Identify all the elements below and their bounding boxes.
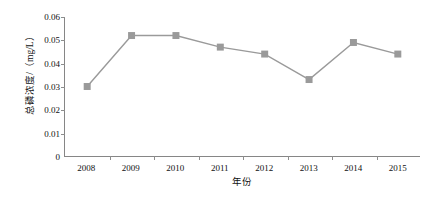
plot-area bbox=[64, 17, 420, 157]
y-axis-tick-mark bbox=[61, 64, 65, 65]
y-axis-tick-mark bbox=[61, 17, 65, 18]
y-axis-tick-label: 0.05 bbox=[30, 35, 60, 45]
data-point-marker bbox=[350, 39, 357, 46]
data-point-marker bbox=[217, 44, 224, 51]
x-axis-tick-label: 2010 bbox=[166, 162, 184, 174]
y-axis-tick-mark bbox=[61, 134, 65, 135]
y-axis-tick-label: 0.03 bbox=[30, 82, 60, 92]
x-axis-tick-mark bbox=[199, 156, 200, 160]
series-line-total-phosphorus bbox=[65, 17, 420, 156]
x-axis-tick-mark bbox=[243, 156, 244, 160]
x-axis-tick-mark bbox=[110, 156, 111, 160]
x-axis-tick-label: 2013 bbox=[300, 162, 318, 174]
x-axis-tick-label: 2014 bbox=[344, 162, 362, 174]
y-axis-tick-mark bbox=[61, 87, 65, 88]
data-point-marker bbox=[261, 51, 268, 58]
x-axis-tick-label: 2012 bbox=[255, 162, 273, 174]
data-point-marker bbox=[128, 32, 135, 39]
y-axis-tick-mark bbox=[61, 40, 65, 41]
y-axis-tick-label: 0.04 bbox=[30, 59, 60, 69]
x-axis-tick-label: 2008 bbox=[77, 162, 95, 174]
x-axis-tick-labels: 20082009201020112012201320142015 bbox=[64, 162, 420, 176]
data-point-marker bbox=[84, 83, 91, 90]
data-point-marker bbox=[306, 76, 313, 83]
y-axis-tick-label: 0.06 bbox=[30, 12, 60, 22]
x-axis-tick-mark bbox=[154, 156, 155, 160]
x-axis-tick-label: 2015 bbox=[389, 162, 407, 174]
total-phosphorus-line-chart: 总磷浓度/（mg/L） 00.010.020.030.040.050.06 20… bbox=[0, 0, 448, 200]
y-axis-tick-label: 0.02 bbox=[30, 105, 60, 115]
x-axis-tick-label: 2011 bbox=[211, 162, 229, 174]
y-axis-tick-labels: 00.010.020.030.040.050.06 bbox=[30, 10, 60, 164]
y-axis-tick-label: 0 bbox=[30, 152, 60, 162]
y-axis-tick-mark bbox=[61, 110, 65, 111]
x-axis-tick-mark bbox=[377, 156, 378, 160]
x-axis-tick-mark bbox=[288, 156, 289, 160]
x-axis-tick-label: 2009 bbox=[122, 162, 140, 174]
data-point-marker bbox=[394, 51, 401, 58]
x-axis-title: 年份 bbox=[64, 176, 420, 189]
x-axis-tick-mark bbox=[332, 156, 333, 160]
data-point-marker bbox=[172, 32, 179, 39]
y-axis-tick-label: 0.01 bbox=[30, 129, 60, 139]
